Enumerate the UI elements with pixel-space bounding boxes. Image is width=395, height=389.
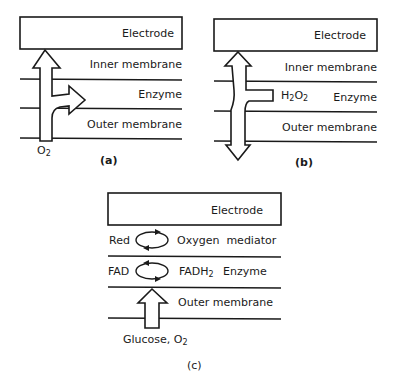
caption-c: (c) [187,360,202,372]
o2-label: O2 [37,145,51,157]
enzyme-label-b: Enzyme [333,92,377,104]
glucose-o2-label: Glucose, O2 [123,334,188,346]
inner-membrane-label-b: Inner membrane [285,62,377,74]
enzyme-label-a: Enzyme [138,89,182,101]
red-label: Red [109,235,130,247]
o2-arrow-icon [33,50,85,141]
membrane-line-c3 [108,318,281,319]
oxygen-mediator-label: Oxygen mediator [177,235,276,247]
caption-a: (a) [100,155,117,167]
fadh2-label: FADH2 [179,266,214,278]
electrode-label-b: Electrode [314,30,366,42]
h2o2-label: H2O2 [281,90,308,102]
redox-cycle-enzyme-icon [136,263,168,279]
electrode-label-c: Electrode [211,205,263,217]
fad-label: FAD [108,266,129,278]
electrode-label-a: Electrode [122,28,174,40]
membrane-line-c2 [108,287,281,288]
h2o2-double-arrow-icon [225,52,273,160]
caption-b: (b) [295,157,313,169]
outer-membrane-label-b: Outer membrane [282,122,377,134]
glucose-arrow-icon [138,289,167,328]
enzyme-label-c: Enzyme [223,266,267,278]
outer-membrane-label-a: Outer membrane [87,119,182,131]
redox-cycle-mediator-icon [136,232,168,248]
outer-membrane-label-c: Outer membrane [178,297,273,309]
diagram-graphics [0,0,395,389]
inner-membrane-label-a: Inner membrane [90,59,182,71]
membrane-line-c1 [108,256,281,257]
